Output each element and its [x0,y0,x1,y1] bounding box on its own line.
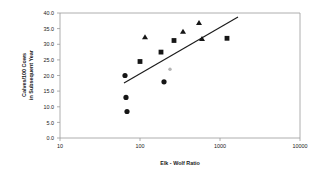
y-tick-label: 0.0 [47,135,55,141]
data-point-square [225,36,230,41]
trend-line [124,17,238,83]
x-tick-label: 100 [136,143,145,149]
data-markers [122,20,229,114]
y-axis-title-line1: Calves/100 Cows [21,53,27,97]
scatter-plot-svg: 40.0 35.0 30.0 25.0 20.0 15.0 10.0 5.0 0… [0,0,321,172]
y-tick-label: 30.0 [44,41,55,47]
y-tick-label: 10.0 [44,104,55,110]
chart-figure: 40.0 35.0 30.0 25.0 20.0 15.0 10.0 5.0 0… [0,0,321,172]
y-tick-label: 5.0 [47,120,55,126]
data-point-faint [168,68,171,71]
x-axis-title: Elk - Wolf Ratio [160,160,200,166]
y-tick-label: 25.0 [44,57,55,63]
data-point-triangle [180,29,186,34]
data-point-circle [161,79,166,84]
y-axis-title-line2: in Subsequent Year [28,49,34,100]
data-point-circle [124,109,129,114]
y-tick-labels: 40.0 35.0 30.0 25.0 20.0 15.0 10.0 5.0 0… [44,10,55,141]
y-tick-label: 20.0 [44,73,55,79]
data-point-triangle [142,34,148,39]
y-axis-title: Calves/100 Cows in Subsequent Year [21,49,34,100]
x-tickmarks [60,138,300,141]
data-point-circle [123,95,128,100]
y-tickmarks [57,13,60,138]
data-point-square [172,38,177,43]
y-tick-label: 15.0 [44,88,55,94]
y-tick-label: 40.0 [44,10,55,16]
x-tick-label: 1000 [214,143,226,149]
data-point-square [138,59,143,64]
x-tick-labels: 10 100 1000 10000 [57,143,308,149]
plot-axes [60,13,300,138]
data-point-triangle [196,20,202,25]
y-tick-label: 35.0 [44,26,55,32]
x-tick-label: 10000 [293,143,308,149]
data-point-square [159,50,164,55]
x-tick-label: 10 [57,143,63,149]
data-point-circle [122,73,127,78]
